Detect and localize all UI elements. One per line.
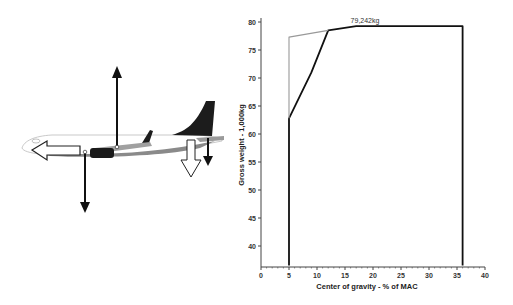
airplane-force-diagram [0, 0, 240, 305]
x-tick-label: 25 [397, 272, 405, 279]
y-tick-label: 55 [248, 159, 256, 166]
cg-envelope-chart: 404550556065707580051015202530354079,242… [230, 0, 513, 305]
y-tick-label: 45 [248, 215, 256, 222]
chart-axes [258, 18, 485, 270]
y-axis-title: Gross weight - 1,000kg [237, 104, 246, 186]
x-tick-label: 10 [313, 272, 321, 279]
x-tick-label: 35 [453, 272, 461, 279]
y-tick-label: 40 [248, 243, 256, 250]
y-tick-label: 70 [248, 75, 256, 82]
max-weight-annotation: 79,242kg [351, 17, 380, 25]
chart-labels: 404550556065707580051015202530354079,242… [237, 17, 489, 291]
chart-series [289, 26, 463, 265]
y-tick-label: 60 [248, 131, 256, 138]
x-tick-label: 40 [481, 272, 489, 279]
x-tick-label: 5 [287, 272, 291, 279]
y-tick-label: 80 [248, 19, 256, 26]
y-tick-label: 50 [248, 187, 256, 194]
y-tick-label: 65 [248, 103, 256, 110]
x-tick-label: 15 [341, 272, 349, 279]
x-tick-label: 0 [259, 272, 263, 279]
x-tick-label: 30 [425, 272, 433, 279]
x-tick-label: 20 [369, 272, 377, 279]
y-tick-label: 75 [248, 47, 256, 54]
x-axis-title: Center of gravity - % of MAC [316, 282, 418, 291]
weight-arrow-icon [80, 150, 90, 213]
envelope-line [289, 26, 463, 265]
